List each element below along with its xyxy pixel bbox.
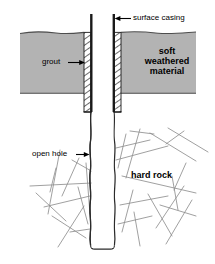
fracture-line <box>172 176 178 210</box>
fracture-line <box>120 196 168 205</box>
grout-band-right <box>114 32 121 112</box>
hard-rock-fracture-network <box>30 128 208 247</box>
fracture-line <box>118 134 126 168</box>
fracture-line <box>150 133 196 161</box>
grout-annulus <box>83 32 121 112</box>
label-soft-line-2: weathered <box>139 56 195 66</box>
fracture-line <box>168 128 208 152</box>
fracture-line <box>134 212 140 246</box>
label-open-hole: open hole <box>32 150 67 159</box>
well-schematic-svg <box>0 0 215 264</box>
fracture-line <box>78 187 88 224</box>
fracture-line <box>58 206 84 247</box>
label-soft-line-3: material <box>139 66 195 76</box>
open-hole-arrow <box>76 152 90 157</box>
borehole-cross-section-diagram: surface casing grout soft weathered mate… <box>0 0 215 264</box>
borehole-right-wall <box>114 112 115 246</box>
label-soft-line-1: soft <box>139 46 195 56</box>
surface-casing <box>91 14 114 112</box>
label-grout: grout <box>42 58 60 67</box>
label-surface-casing: surface casing <box>133 14 185 23</box>
label-hard-rock: hard rock <box>131 170 172 180</box>
fracture-line <box>30 183 92 186</box>
fracture-line <box>122 190 133 232</box>
fracture-line <box>116 140 150 148</box>
fracture-line <box>148 194 172 236</box>
borehole-interior-fill <box>92 113 114 248</box>
fracture-line <box>52 216 86 238</box>
fracture-line <box>156 186 184 228</box>
borehole-left-wall-overdraw <box>90 112 91 246</box>
fracture-line <box>62 158 79 196</box>
open-hole <box>90 112 115 249</box>
fracture-line <box>166 131 184 144</box>
label-soft-weathered-material: soft weathered material <box>139 46 195 76</box>
grout-band-left <box>84 32 91 112</box>
fracture-line <box>116 146 168 160</box>
surface-casing-arrow <box>115 16 131 21</box>
